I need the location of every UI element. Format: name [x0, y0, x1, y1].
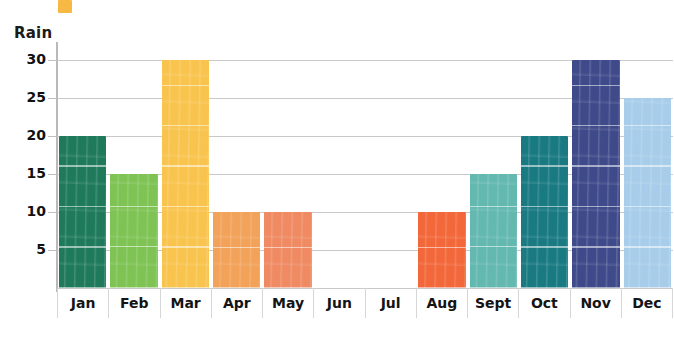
- bar-slot-nov[interactable]: [570, 45, 621, 288]
- y-tick-mark: [48, 174, 56, 175]
- bar-slot-dec[interactable]: [622, 45, 673, 288]
- bar-slot-mar[interactable]: [160, 45, 211, 288]
- bar-slot-may[interactable]: [262, 45, 313, 288]
- bar-slot-oct[interactable]: [519, 45, 570, 288]
- bar-slot-apr[interactable]: [211, 45, 262, 288]
- x-label-oct: Oct: [519, 288, 570, 318]
- y-tick-column: 51015202530: [0, 45, 46, 288]
- y-tick-mark: [48, 60, 56, 61]
- x-label-may: May: [263, 288, 314, 318]
- x-label-feb: Feb: [109, 288, 160, 318]
- y-tick-mark: [48, 136, 56, 137]
- x-label-jan: Jan: [57, 288, 109, 318]
- y-tick-mark: [48, 212, 56, 213]
- rain-bar-chart: Rain 51015202530 JanFebMarAprMayJunJulAu…: [0, 0, 674, 337]
- x-axis-labels: JanFebMarAprMayJunJulAugSeptOctNovDec: [57, 288, 673, 318]
- y-tick-label: 15: [12, 165, 46, 181]
- bar-jan[interactable]: [59, 136, 106, 288]
- bar-aug[interactable]: [418, 212, 465, 288]
- bar-apr[interactable]: [213, 212, 260, 288]
- y-tick-label: 20: [12, 127, 46, 143]
- x-label-jun: Jun: [314, 288, 365, 318]
- bar-slot-jun[interactable]: [314, 45, 365, 288]
- bar-slot-jan[interactable]: [57, 45, 108, 288]
- x-label-aug: Aug: [417, 288, 468, 318]
- orange-swatch-icon: [58, 0, 72, 13]
- x-label-mar: Mar: [161, 288, 212, 318]
- y-tick-label: 30: [12, 51, 46, 67]
- bar-feb[interactable]: [110, 174, 157, 288]
- x-label-nov: Nov: [571, 288, 622, 318]
- y-tick-label: 10: [12, 203, 46, 219]
- bar-may[interactable]: [264, 212, 311, 288]
- bar-oct[interactable]: [521, 136, 568, 288]
- x-label-dec: Dec: [622, 288, 673, 318]
- x-label-sept: Sept: [468, 288, 519, 318]
- bar-mar[interactable]: [162, 60, 209, 288]
- bar-sept[interactable]: [470, 174, 517, 288]
- bar-nov[interactable]: [572, 60, 619, 288]
- bar-dec[interactable]: [624, 98, 671, 288]
- bar-slot-aug[interactable]: [416, 45, 467, 288]
- y-tick-label: 5: [12, 241, 46, 257]
- bar-slot-sept[interactable]: [468, 45, 519, 288]
- y-tick-mark: [48, 250, 56, 251]
- bar-series: [57, 45, 673, 288]
- y-tick-label: 25: [12, 89, 46, 105]
- x-label-apr: Apr: [212, 288, 263, 318]
- y-tick-mark: [48, 98, 56, 99]
- bar-slot-jul[interactable]: [365, 45, 416, 288]
- bar-slot-feb[interactable]: [108, 45, 159, 288]
- y-axis-label: Rain: [14, 24, 52, 42]
- x-label-jul: Jul: [366, 288, 417, 318]
